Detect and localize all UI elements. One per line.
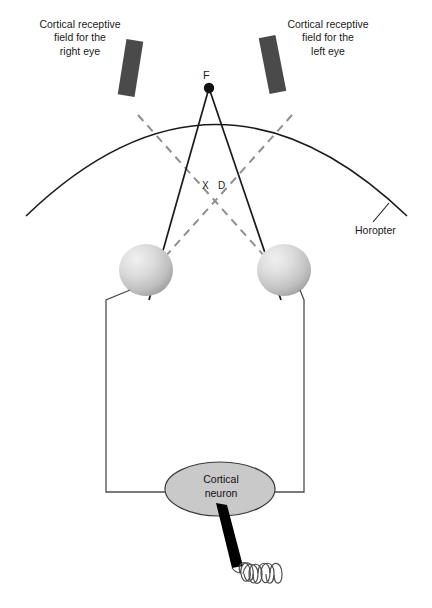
label-crossing-point-x: X xyxy=(202,180,209,193)
cortical-neuron-label-line2: neuron xyxy=(175,487,267,501)
label-horopter: Horopter xyxy=(355,224,396,237)
horopter-leader-line xyxy=(373,203,389,222)
label-cortical-receptive-field-right-eye: Cortical receptive field for the right e… xyxy=(14,18,146,58)
label-fixation-point-f: F xyxy=(203,68,210,82)
wire-left-eye-to-neuron xyxy=(274,290,304,492)
spike-trace-coil-4 xyxy=(270,563,282,583)
figure-root: Cortical receptive field for the right e… xyxy=(0,0,432,608)
diagram-canvas xyxy=(0,0,432,608)
label-cortical-receptive-field-left-eye: Cortical receptive field for the left ey… xyxy=(262,18,394,58)
fixation-point-dot xyxy=(204,83,214,93)
wire-right-eye-to-neuron xyxy=(106,290,166,492)
cortical-neuron-label-line1: Cortical xyxy=(175,473,267,487)
eye-left-observer xyxy=(257,244,311,296)
eye-right-observer xyxy=(119,244,173,296)
cortical-neuron-label: Cortical neuron xyxy=(175,473,267,500)
label-disparity-d: D xyxy=(218,180,225,193)
